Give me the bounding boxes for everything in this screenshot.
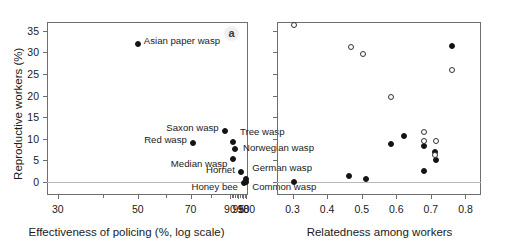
x-tick-a (138, 195, 139, 199)
x-minor-tick-a (233, 195, 234, 198)
x-axis-title-a: Effectiveness of policing (%, log scale) (0, 227, 253, 239)
data-point (232, 146, 238, 152)
y-tick-label-a: 20 (7, 91, 39, 102)
x-minor-tick-a (240, 195, 241, 198)
x-minor-tick-a (211, 195, 212, 198)
x-tick-label-a: 30 (38, 204, 78, 215)
data-point (363, 176, 369, 182)
x-tick-a (58, 195, 59, 199)
panel-a: a Reproductive workers (%) Effectiveness… (0, 0, 253, 250)
y-tick-a (43, 139, 47, 140)
x-axis-title-b: Relatedness among workers (253, 227, 506, 239)
x-tick-label-a: 70 (171, 204, 211, 215)
data-point (348, 44, 354, 50)
x-minor-tick-a (166, 195, 167, 198)
x-tick-a (230, 195, 231, 199)
x-tick-a (238, 195, 239, 199)
x-tick-label-b: 0.8 (445, 204, 485, 215)
data-point (135, 41, 141, 47)
y-tick-label-a: 0 (7, 177, 39, 188)
panel-b: b Relatedness among workers 0.30.40.50.6… (253, 0, 506, 250)
species-label: Asian paper wasp (144, 36, 220, 46)
data-point (421, 138, 427, 144)
x-tick-b (465, 195, 466, 199)
y-tick-b (273, 160, 277, 161)
data-point (388, 141, 394, 147)
y-tick-label-a: 10 (7, 134, 39, 145)
y-tick-b (273, 96, 277, 97)
y-tick-label-a: 30 (7, 47, 39, 58)
x-tick-b (293, 195, 294, 199)
data-point (291, 179, 297, 185)
x-tick-b (396, 195, 397, 199)
data-point (190, 140, 196, 146)
y-tick-a (43, 31, 47, 32)
x-minor-tick-a (245, 195, 246, 198)
x-tick-b (327, 195, 328, 199)
data-point (388, 94, 394, 100)
data-point (243, 179, 249, 185)
species-label: Hornet (206, 165, 235, 175)
figure-container: a Reproductive workers (%) Effectiveness… (0, 0, 506, 250)
y-tick-b (273, 139, 277, 140)
x-minor-tick-a (235, 195, 236, 198)
species-label: Saxon wasp (166, 123, 218, 133)
x-minor-tick-a (242, 195, 243, 198)
species-label: Red wasp (144, 135, 187, 145)
x-tick-b (362, 195, 363, 199)
data-point (421, 168, 427, 174)
y-tick-a (43, 74, 47, 75)
y-tick-label-a: 35 (7, 26, 39, 37)
x-minor-tick-a (237, 195, 238, 198)
x-tick-a (191, 195, 192, 199)
y-tick-label-a: 25 (7, 69, 39, 80)
data-point (238, 169, 244, 175)
y-tick-a (43, 96, 47, 97)
x-tick-a (246, 195, 247, 199)
y-tick-b (273, 52, 277, 53)
y-tick-a (43, 52, 47, 53)
data-point (421, 129, 427, 135)
y-tick-b (273, 117, 277, 118)
x-tick-b (431, 195, 432, 199)
y-tick-label-a: 15 (7, 112, 39, 123)
x-tick-a (243, 195, 244, 199)
data-point (433, 138, 439, 144)
y-tick-a (43, 160, 47, 161)
y-tick-b (273, 74, 277, 75)
x-tick-label-a: 50 (118, 204, 158, 215)
data-point (346, 173, 352, 179)
y-tick-b (273, 31, 277, 32)
y-tick-a (43, 117, 47, 118)
species-label: Honey bee (192, 182, 238, 192)
data-point (449, 67, 455, 73)
zero-baseline-b (277, 182, 481, 183)
data-point (432, 152, 438, 158)
x-minor-tick-a (103, 195, 104, 198)
y-tick-label-a: 5 (7, 155, 39, 166)
panel-letter-a: a (224, 26, 239, 41)
